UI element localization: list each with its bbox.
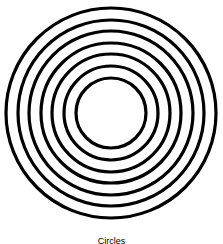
circle-ring-5 xyxy=(52,54,170,172)
circle-ring-2 xyxy=(18,20,204,206)
circle-ring-1 xyxy=(6,8,216,218)
figure-caption: Circles xyxy=(0,236,223,244)
concentric-circles-figure xyxy=(0,0,223,236)
circle-ring-4 xyxy=(41,43,181,183)
circle-ring-6 xyxy=(64,66,158,160)
circle-ring-7 xyxy=(76,78,146,148)
